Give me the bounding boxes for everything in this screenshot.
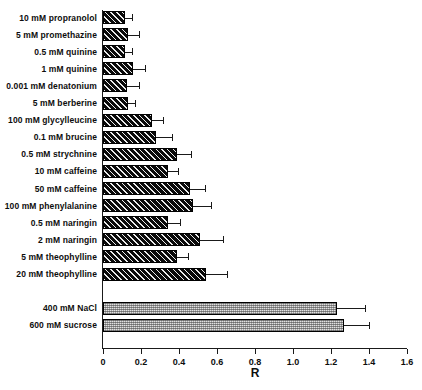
x-tick: [141, 349, 142, 354]
x-tick: [407, 349, 408, 354]
error-bar: [177, 154, 191, 155]
category-label: 0.1 mM brucine: [34, 132, 97, 142]
error-bar: [128, 103, 136, 104]
bar: [103, 148, 177, 161]
bar: [103, 233, 200, 246]
error-bar: [200, 240, 223, 241]
bar: [103, 319, 344, 332]
error-bar: [127, 86, 139, 87]
x-tick: [331, 349, 332, 354]
bar: [103, 302, 337, 315]
error-bar-cap: [132, 14, 133, 21]
plot-area: 00.20.40.60.81.01.21.41.6: [103, 10, 407, 348]
error-bar-cap: [180, 219, 181, 226]
error-bar: [344, 325, 369, 326]
bar: [103, 62, 133, 75]
error-bar-cap: [145, 65, 146, 72]
error-bar-cap: [139, 31, 140, 38]
bar: [103, 28, 128, 41]
bar: [103, 268, 206, 281]
category-label: 100 mM phenylalanine: [5, 201, 97, 211]
y-axis-line: [102, 10, 103, 348]
category-label: 0.001 mM denatonium: [6, 81, 97, 91]
bar: [103, 45, 125, 58]
error-bar-cap: [227, 271, 228, 278]
category-label: 5 mM berberine: [33, 98, 97, 108]
bar: [103, 199, 193, 212]
bar: [103, 216, 168, 229]
error-bar: [125, 52, 133, 53]
error-bar: [206, 274, 228, 275]
category-label: 100 mM glycylleucine: [8, 115, 97, 125]
error-bar: [156, 137, 172, 138]
category-label: 5 mM theophylline: [21, 252, 97, 262]
category-label: 2 mM naringin: [38, 235, 97, 245]
error-bar-cap: [163, 117, 164, 124]
category-label: 400 mM NaCl: [43, 303, 97, 313]
x-tick: [217, 349, 218, 354]
category-label: 600 mM sucrose: [29, 320, 97, 330]
error-bar-cap: [369, 322, 370, 329]
error-bar: [128, 35, 139, 36]
error-bar-cap: [139, 82, 140, 89]
error-bar: [337, 308, 366, 309]
error-bar: [168, 223, 180, 224]
error-bar-cap: [135, 100, 136, 107]
error-bar-cap: [188, 253, 189, 260]
error-bar: [193, 206, 211, 207]
error-bar-cap: [191, 151, 192, 158]
bar: [103, 165, 168, 178]
error-bar-cap: [172, 134, 173, 141]
x-axis-title: R: [103, 366, 407, 380]
category-label: 10 mM caffeine: [35, 166, 97, 176]
bar: [103, 250, 177, 263]
x-tick: [293, 349, 294, 354]
bar: [103, 79, 127, 92]
category-label: 0.5 mM quinine: [34, 47, 97, 57]
x-tick: [179, 349, 180, 354]
error-bar: [190, 189, 204, 190]
bar-chart: 10 mM propranolol5 mM promethazine0.5 mM…: [0, 0, 422, 390]
bar: [103, 114, 152, 127]
error-bar-cap: [205, 185, 206, 192]
bar: [103, 182, 190, 195]
bar: [103, 11, 125, 24]
x-tick: [369, 349, 370, 354]
category-label: 0.5 mM strychnine: [21, 149, 97, 159]
error-bar-cap: [211, 202, 212, 209]
x-tick: [103, 349, 104, 354]
category-label: 20 mM theophylline: [16, 269, 97, 279]
bar: [103, 97, 128, 110]
error-bar-cap: [365, 305, 366, 312]
error-bar: [168, 171, 178, 172]
error-bar: [125, 18, 133, 19]
category-label: 5 mM promethazine: [16, 30, 97, 40]
error-bar-cap: [223, 236, 224, 243]
error-bar: [152, 120, 162, 121]
error-bar-cap: [132, 48, 133, 55]
error-bar: [133, 69, 144, 70]
x-tick: [255, 349, 256, 354]
error-bar: [177, 257, 187, 258]
category-label: 50 mM caffeine: [35, 184, 97, 194]
category-axis-labels: 10 mM propranolol5 mM promethazine0.5 mM…: [0, 0, 100, 350]
category-label: 1 mM quinine: [41, 64, 97, 74]
category-label: 0.5 mM naringin: [31, 218, 97, 228]
error-bar-cap: [178, 168, 179, 175]
bar: [103, 131, 156, 144]
category-label: 10 mM propranolol: [19, 13, 97, 23]
